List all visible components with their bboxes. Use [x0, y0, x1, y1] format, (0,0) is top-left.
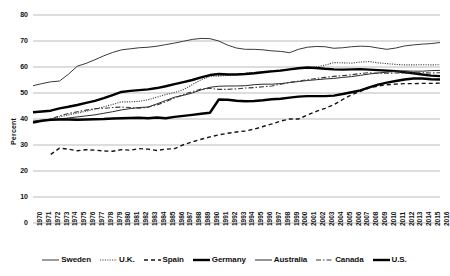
- x-tick-label: 2008: [372, 212, 379, 226]
- x-tick-label: 1979: [116, 212, 123, 226]
- x-tick-label: 2010: [390, 212, 397, 226]
- legend-label: Sweden: [61, 255, 91, 264]
- x-tick-label: 1987: [186, 212, 193, 226]
- x-tick-label: 2005: [346, 212, 353, 226]
- legend-item-canada[interactable]: Canada: [316, 255, 363, 264]
- legend-item-germany[interactable]: Germany: [193, 255, 246, 264]
- x-tick-label: 2014: [425, 212, 432, 226]
- legend-swatch-uk: [100, 256, 117, 264]
- x-tick-label: 2000: [301, 212, 308, 226]
- legend-swatch-spain: [144, 256, 161, 264]
- legend-label: U.K.: [119, 255, 135, 264]
- y-tick-label: 80: [10, 11, 28, 19]
- legend-swatch-australia: [255, 256, 272, 264]
- x-tick-label: 1973: [63, 212, 70, 226]
- series-line-australia: [33, 70, 440, 121]
- chart-legend: SwedenU.K.SpainGermanyAustraliaCanadaU.S…: [0, 255, 449, 264]
- series-line-sweden: [33, 38, 440, 85]
- x-tick-label: 1990: [213, 212, 220, 226]
- x-tick-label: 1982: [142, 212, 149, 226]
- x-tick-label: 2013: [416, 212, 423, 226]
- x-tick-label: 2012: [408, 212, 415, 226]
- x-tick-label: 1984: [160, 212, 167, 226]
- y-tick-label: 50: [10, 89, 28, 97]
- x-tick-label: 1978: [107, 212, 114, 226]
- legend-swatch-canada: [316, 256, 333, 264]
- x-tick-label: 1975: [80, 212, 87, 226]
- x-tick-label: 1998: [284, 212, 291, 226]
- legend-label: Germany: [212, 255, 246, 264]
- legend-label: Australia: [274, 255, 307, 264]
- legend-item-spain[interactable]: Spain: [144, 255, 184, 264]
- legend-item-australia[interactable]: Australia: [255, 255, 307, 264]
- x-tick-label: 2009: [381, 212, 388, 226]
- x-tick-label: 2003: [328, 212, 335, 226]
- x-tick-label: 1994: [248, 212, 255, 226]
- series-line-germany: [33, 68, 440, 113]
- legend-item-uk[interactable]: U.K.: [100, 255, 135, 264]
- x-tick-label: 1971: [45, 212, 52, 226]
- x-tick-label: 1981: [133, 212, 140, 226]
- x-tick-label: 1977: [98, 212, 105, 226]
- y-tick-label: 10: [10, 193, 28, 201]
- legend-item-us[interactable]: U.S.: [373, 255, 407, 264]
- legend-swatch-germany: [193, 256, 210, 264]
- y-tick-label: 20: [10, 167, 28, 175]
- x-tick-label: 1983: [151, 212, 158, 226]
- x-tick-label: 1976: [89, 212, 96, 226]
- legend-label: Canada: [335, 255, 363, 264]
- legend-swatch-sweden: [42, 256, 59, 264]
- x-tick-label: 1986: [178, 212, 185, 226]
- x-tick-label: 2007: [363, 212, 370, 226]
- legend-label: U.S.: [392, 255, 407, 264]
- x-tick-label: 1992: [231, 212, 238, 226]
- x-tick-label: 2015: [434, 212, 441, 226]
- x-tick-label: 1993: [240, 212, 247, 226]
- legend-label: Spain: [163, 255, 184, 264]
- x-tick-label: 2006: [355, 212, 362, 226]
- x-tick-label: 1980: [124, 212, 131, 226]
- y-tick-label: 0: [10, 219, 28, 227]
- x-tick-label: 2002: [319, 212, 326, 226]
- y-tick-label: 40: [10, 115, 28, 123]
- legend-item-sweden[interactable]: Sweden: [42, 255, 91, 264]
- x-tick-label: 1974: [71, 212, 78, 226]
- x-tick-label: 2011: [399, 212, 406, 226]
- x-tick-label: 1988: [195, 212, 202, 226]
- x-tick-label: 1972: [54, 212, 61, 226]
- x-tick-label: 2001: [310, 212, 317, 226]
- y-tick-label: 60: [10, 63, 28, 71]
- x-tick-label: 2004: [337, 212, 344, 226]
- x-tick-label: 1996: [266, 212, 273, 226]
- y-tick-label: 30: [10, 141, 28, 149]
- x-tick-label: 1985: [169, 212, 176, 226]
- x-tick-label: 1970: [36, 212, 43, 226]
- legend-swatch-us: [373, 256, 390, 264]
- x-tick-label: 1997: [275, 212, 282, 226]
- x-tick-label: 1995: [257, 212, 264, 226]
- x-tick-label: 2016: [443, 212, 450, 226]
- y-tick-label: 70: [10, 37, 28, 45]
- x-tick-label: 1989: [204, 212, 211, 226]
- x-tick-label: 1991: [222, 212, 229, 226]
- x-tick-label: 1999: [293, 212, 300, 226]
